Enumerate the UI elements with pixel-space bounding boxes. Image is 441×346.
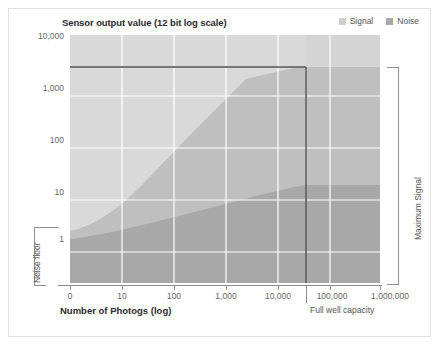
y-tick-label-1000: 1,000 xyxy=(18,83,64,93)
x-tick-label-100000: 100,000 xyxy=(317,291,348,301)
x-axis-title: Number of Photogs (log) xyxy=(60,305,171,316)
chart-legend: Signal Noise xyxy=(339,16,419,26)
x-tick-label-1000: 1,000 xyxy=(215,291,236,301)
x-tick-mark-100 xyxy=(174,286,175,290)
x-tick-label-10000: 10,000 xyxy=(265,291,291,301)
x-tick-label-100: 100 xyxy=(167,291,181,301)
y-tick-label-100: 100 xyxy=(18,135,64,145)
x-axis-line xyxy=(58,285,382,286)
chart-figure: Sensor output value (12 bit log scale) S… xyxy=(0,0,441,346)
x-tick-mark-10 xyxy=(122,286,123,290)
plot-svg xyxy=(70,35,380,283)
y-tick-label-10000: 10,000 xyxy=(18,31,64,41)
x-tick-mark-100000 xyxy=(330,286,331,290)
full-well-capacity-tick xyxy=(306,286,307,303)
y-axis-ticks: 10,000 1,000 100 10 1 xyxy=(18,0,64,346)
chart-title: Sensor output value (12 bit log scale) xyxy=(62,17,227,28)
maximum-signal-label: Maximum Signal xyxy=(413,177,423,240)
y-tick-label-10: 10 xyxy=(18,187,64,197)
maximum-signal-bracket xyxy=(387,67,399,285)
plot-area xyxy=(70,35,380,283)
x-tick-mark-1000 xyxy=(226,286,227,290)
legend-swatch-noise xyxy=(386,18,393,25)
x-tick-mark-1000000 xyxy=(380,286,381,290)
x-tick-label-0: 0 xyxy=(68,291,73,301)
x-tick-label-10: 10 xyxy=(117,291,126,301)
legend-label-signal: Signal xyxy=(350,16,374,26)
legend-item-signal[interactable]: Signal xyxy=(339,16,374,26)
x-tick-mark-10000 xyxy=(278,286,279,290)
noise-floor-bracket-stem xyxy=(46,227,59,228)
legend-label-noise: Noise xyxy=(397,16,419,26)
x-tick-mark-0 xyxy=(70,286,71,290)
legend-item-noise[interactable]: Noise xyxy=(386,16,419,26)
legend-swatch-signal xyxy=(339,18,346,25)
noise-floor-label: Noise floor xyxy=(32,231,42,283)
full-well-capacity-label: Full well capacity xyxy=(310,305,374,315)
x-tick-label-1000000: 1,000,000 xyxy=(371,291,409,301)
